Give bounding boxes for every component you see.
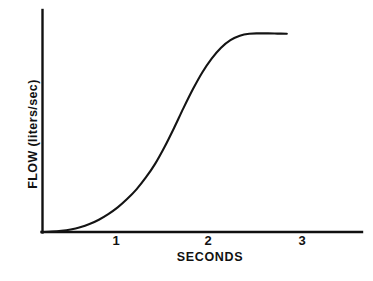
y-axis-title: FLOW (liters/sec) [26, 49, 40, 219]
plot-canvas [0, 0, 373, 281]
figure-root: 1 2 3 SECONDS FLOW (liters/sec) [0, 0, 373, 281]
x-tick-label-3: 3 [290, 234, 314, 248]
x-tick-label-1: 1 [104, 234, 128, 248]
flow-curve [43, 33, 287, 232]
caption-remnant [18, 272, 358, 281]
x-tick-label-2: 2 [196, 234, 220, 248]
x-axis-title: SECONDS [152, 250, 268, 264]
